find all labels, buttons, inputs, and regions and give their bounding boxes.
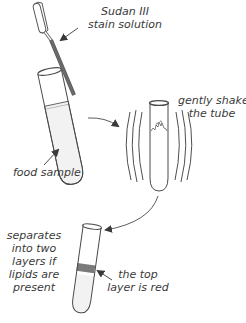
separates-label-line5: present bbox=[2, 281, 66, 294]
shake-motion-lines-left bbox=[126, 110, 143, 182]
stain-label: Sudan III stain solution bbox=[86, 5, 164, 31]
pipette bbox=[32, 2, 74, 95]
shake-label-line2: the tube bbox=[178, 107, 246, 120]
red-layer-label-line2: layer is red bbox=[102, 281, 174, 294]
shake-motion-lines-right bbox=[175, 110, 192, 182]
separates-label-line1: separates bbox=[2, 229, 66, 242]
red-layer-label-line1: the top bbox=[102, 268, 174, 281]
separates-label-line4: lipids are bbox=[2, 268, 66, 281]
separates-label: separates into two layers if lipids are … bbox=[2, 229, 66, 294]
step2-to-step3-arrow bbox=[106, 196, 158, 230]
shake-label: gently shake the tube bbox=[178, 94, 246, 120]
red-layer-label: the top layer is red bbox=[102, 268, 174, 294]
stain-label-line2: stain solution bbox=[86, 18, 164, 31]
shake-label-line1: gently shake bbox=[178, 94, 246, 107]
stain-label-line1: Sudan III bbox=[86, 5, 164, 18]
separates-label-line3: layers if bbox=[2, 255, 66, 268]
step1-to-step2-arrow bbox=[88, 118, 118, 126]
red-lipid-layer bbox=[76, 263, 95, 273]
sudan-iii-diagram: Sudan III stain solution food sample gen… bbox=[0, 0, 246, 323]
step3-test-tube bbox=[71, 223, 102, 314]
separates-label-line2: into two bbox=[2, 242, 66, 255]
stain-arrow bbox=[61, 28, 78, 40]
food-sample-label: food sample bbox=[13, 166, 81, 179]
